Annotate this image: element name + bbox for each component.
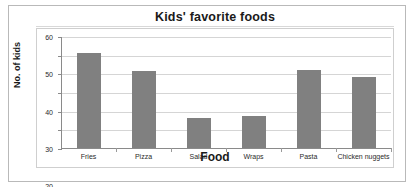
y-tick-mark: 60 <box>58 37 62 38</box>
bar <box>132 71 156 148</box>
y-tick-mark: 50 <box>58 56 62 57</box>
page-title: Kids' favorite foods <box>155 10 275 24</box>
bar <box>242 116 266 148</box>
y-tick-label: 40 <box>45 108 53 115</box>
y-tick-label: 60 <box>45 34 53 41</box>
y-tick-label: 20 <box>45 183 53 187</box>
bar <box>352 77 376 148</box>
y-tick-mark: 40 <box>58 74 62 75</box>
y-tick-mark: 10 <box>58 130 62 131</box>
gridline <box>61 56 391 57</box>
chart-title-band: Kids' favorite foods <box>36 8 394 27</box>
plot-frame: 0102030405060FriesPizzaSaladWrapsPastaCh… <box>36 28 394 168</box>
gridline <box>61 74 391 75</box>
bar <box>77 53 101 148</box>
y-tick-mark: 30 <box>58 93 62 94</box>
y-axis-label: No. of kids <box>12 30 22 100</box>
bar-chart: Kids' favorite foods No. of kids 0102030… <box>0 0 414 187</box>
gridline <box>61 37 391 38</box>
x-axis-label: Food <box>36 150 394 164</box>
gridline <box>61 93 391 94</box>
y-tick-label: 50 <box>45 71 53 78</box>
y-tick-mark: 20 <box>58 112 62 113</box>
gridline <box>61 112 391 113</box>
gridline <box>61 130 391 131</box>
bar <box>297 70 321 148</box>
bar <box>187 118 211 148</box>
plot-area: 0102030405060FriesPizzaSaladWrapsPastaCh… <box>61 37 391 149</box>
